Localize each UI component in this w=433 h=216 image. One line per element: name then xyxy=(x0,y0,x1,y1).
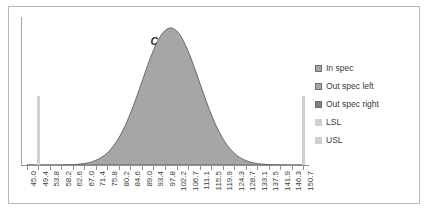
x-axis-tick-label: 137.5 xyxy=(272,171,280,191)
legend-item-label: LSL xyxy=(326,117,341,127)
legend-item-label: Out spec right xyxy=(326,99,379,109)
x-axis-tick xyxy=(84,166,85,170)
distribution-curve-path xyxy=(27,28,303,165)
x-axis-tick xyxy=(130,166,131,170)
x-axis-tick-label: 97.8 xyxy=(169,171,177,187)
x-axis-tick xyxy=(246,166,247,170)
x-axis-tick xyxy=(177,166,178,170)
x-axis-tick-label: 62.6 xyxy=(76,171,84,187)
x-axis-tick-label: 119.9 xyxy=(226,171,234,190)
x-axis-tick xyxy=(61,166,62,170)
legend-swatch-icon xyxy=(315,101,322,108)
x-axis-tick-label: 45.0 xyxy=(30,171,38,187)
x-axis-tick-label: 53.8 xyxy=(53,171,61,187)
usl-marker-bar xyxy=(302,96,305,166)
legend-swatch-icon xyxy=(315,137,322,144)
x-axis-tick xyxy=(38,166,39,170)
x-axis-tick-label: 115.5 xyxy=(215,171,223,190)
legend-item-label: Out spec left xyxy=(326,81,374,91)
chart-figure-frame: Cp > 1 45.049.453.858.262.667.071.475.88… xyxy=(8,6,420,204)
x-axis-tick-label: 67.0 xyxy=(88,171,96,187)
x-axis-tick-labels: 45.049.453.858.262.667.071.475.880.284.6… xyxy=(21,171,309,215)
x-axis-tick-label: 128.7 xyxy=(249,171,257,191)
x-axis-tick-label: 150.7 xyxy=(307,171,315,191)
screenshot-root: Cp > 1 45.049.453.858.262.667.071.475.88… xyxy=(0,0,433,216)
x-axis-tick-label: 93.4 xyxy=(157,171,165,187)
x-axis-tick xyxy=(142,166,143,170)
x-axis-tick xyxy=(73,166,74,170)
x-axis-tick xyxy=(153,166,154,170)
x-axis-tick xyxy=(303,166,304,170)
legend-item-out-spec-left[interactable]: Out spec left xyxy=(315,77,415,95)
x-axis-tick xyxy=(257,166,258,170)
x-axis-tick xyxy=(165,166,166,170)
x-axis-tick-label: 89.0 xyxy=(146,171,154,187)
legend-swatch-icon xyxy=(315,65,322,72)
legend-item-in-spec[interactable]: In spec xyxy=(315,59,415,77)
x-axis-tick xyxy=(27,166,28,170)
x-axis-tick-label: 58.2 xyxy=(65,171,73,187)
x-axis-tick-label: 80.2 xyxy=(123,171,131,187)
x-axis-tick xyxy=(280,166,281,170)
legend-swatch-icon xyxy=(315,119,322,126)
lsl-marker-bar xyxy=(37,96,40,166)
x-axis-tick xyxy=(292,166,293,170)
x-axis-tick-label: 141.9 xyxy=(284,171,292,191)
plot-inner: 45.049.453.858.262.667.071.475.880.284.6… xyxy=(15,11,305,166)
x-axis-tick xyxy=(269,166,270,170)
chart-legend: In specOut spec leftOut spec rightLSLUSL xyxy=(315,59,415,149)
x-axis-tick xyxy=(200,166,201,170)
x-axis-tick xyxy=(107,166,108,170)
legend-item-lsl[interactable]: LSL xyxy=(315,113,415,131)
legend-item-usl[interactable]: USL xyxy=(315,131,415,149)
x-axis-tick-label: 146.3 xyxy=(295,171,303,191)
legend-item-label: USL xyxy=(326,135,343,145)
x-axis-tick xyxy=(223,166,224,170)
x-axis-tick xyxy=(211,166,212,170)
x-axis-tick-label: 49.4 xyxy=(42,171,50,187)
legend-swatch-icon xyxy=(315,83,322,90)
x-axis-tick xyxy=(188,166,189,170)
x-axis-tick xyxy=(96,166,97,170)
x-axis-tick xyxy=(234,166,235,170)
x-axis-tick xyxy=(119,166,120,170)
x-axis-tick xyxy=(50,166,51,170)
x-axis-tick-label: 75.8 xyxy=(111,171,119,187)
x-axis-tick-label: 71.4 xyxy=(99,171,107,187)
legend-item-out-spec-right[interactable]: Out spec right xyxy=(315,95,415,113)
x-axis-tick-label: 133.1 xyxy=(261,171,269,191)
x-axis-tick-label: 106.7 xyxy=(192,171,200,191)
legend-item-label: In spec xyxy=(326,63,353,73)
x-axis-tick-label: 124.3 xyxy=(238,171,246,191)
x-axis-tick-label: 84.6 xyxy=(134,171,142,187)
x-axis-tick-label: 111.1 xyxy=(203,171,211,190)
x-axis-tick-label: 102.2 xyxy=(180,171,188,191)
plot-area: Cp > 1 45.049.453.858.262.667.071.475.88… xyxy=(15,11,305,166)
distribution-curve xyxy=(21,17,309,165)
